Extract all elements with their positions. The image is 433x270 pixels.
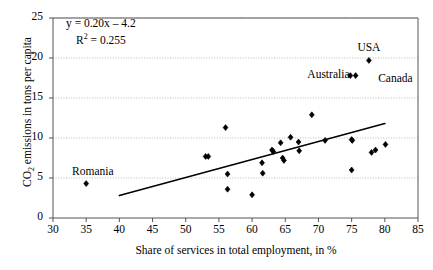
data-point [225, 186, 230, 192]
regression-annotation: y = 0.20x – 4.2 R2 = 0.255 [66, 16, 136, 47]
point-label-romania: Romania [72, 165, 114, 177]
x-tick-label: 80 [372, 223, 398, 235]
chart-figure: CO2 emissions in tons per capita Share o… [0, 0, 433, 270]
trendline [119, 124, 384, 196]
x-axis-label: Share of services in total employment, i… [53, 244, 419, 256]
point-label-australia: Australia [307, 68, 349, 80]
x-tick-label: 75 [339, 223, 365, 235]
data-point [296, 139, 301, 145]
y-tick-label: 25 [21, 10, 43, 22]
point-label-canada: Canada [378, 72, 412, 84]
y-tick-label: 20 [21, 50, 43, 62]
data-point [260, 170, 265, 176]
y-tick-label: 15 [21, 90, 43, 102]
data-point [349, 167, 354, 173]
data-point [297, 148, 302, 154]
x-tick-label: 35 [73, 223, 99, 235]
x-tick-label: 55 [206, 223, 232, 235]
regression-equation: y = 0.20x – 4.2 [66, 16, 136, 30]
data-point [353, 73, 358, 79]
y-tick-label: 5 [21, 170, 43, 182]
data-point [383, 141, 388, 147]
point-label-usa: USA [357, 41, 380, 53]
data-point [288, 134, 293, 140]
x-tick-label: 40 [106, 223, 132, 235]
x-tick-label: 45 [140, 223, 166, 235]
data-point [260, 160, 265, 166]
y-tick-label: 10 [21, 130, 43, 142]
data-point [250, 192, 255, 198]
x-tick-label: 65 [272, 223, 298, 235]
r-squared-value: R2 = 0.255 [66, 30, 136, 47]
data-point [278, 140, 283, 146]
x-tick-label: 50 [173, 223, 199, 235]
x-tick-label: 60 [239, 223, 265, 235]
x-tick-label: 85 [405, 223, 431, 235]
y-tick-label: 0 [21, 210, 43, 222]
x-tick-label: 70 [305, 223, 331, 235]
data-point [223, 125, 228, 131]
data-point [309, 112, 314, 118]
data-point [225, 171, 230, 177]
y-axis-label: CO2 emissions in tons per capita [18, 2, 36, 222]
data-point [84, 181, 89, 187]
x-tick-label: 30 [40, 223, 66, 235]
